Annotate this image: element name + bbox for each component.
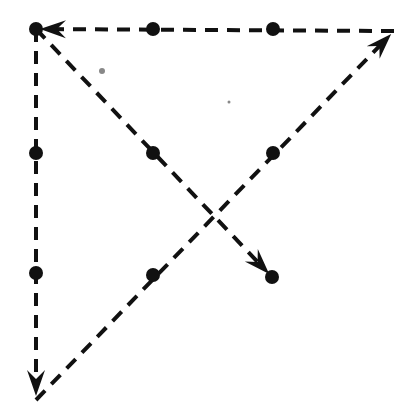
path-segments <box>36 29 394 400</box>
grid-dot-2 <box>146 22 160 36</box>
speck-2 <box>228 101 231 104</box>
grid-dot-1 <box>29 22 43 36</box>
grid-dot-6 <box>266 146 280 160</box>
grid-dot-8 <box>146 268 160 282</box>
nine-dot-diagram <box>0 0 415 417</box>
path-segment-4 <box>36 29 261 266</box>
grid-dot-9 <box>265 270 279 284</box>
speck-1 <box>99 68 105 74</box>
path-segment-3 <box>52 29 394 31</box>
scan-specks <box>99 68 231 104</box>
grid-dot-7 <box>29 266 43 280</box>
grid-dot-5 <box>146 146 160 160</box>
path-segment-2 <box>36 42 383 400</box>
grid-dot-3 <box>266 22 280 36</box>
grid-dot-4 <box>29 146 43 160</box>
